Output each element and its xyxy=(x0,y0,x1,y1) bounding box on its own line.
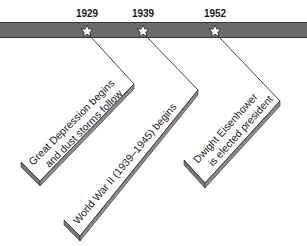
connector-line xyxy=(90,36,134,84)
year-label: 1939 xyxy=(132,8,155,19)
event-text: and dust storms follow xyxy=(42,87,125,170)
connector-line xyxy=(146,36,198,90)
year-label: 1929 xyxy=(76,8,99,19)
timeline-band xyxy=(0,22,307,38)
year-label: 1952 xyxy=(204,8,227,19)
timeline-diagram: 1929 1939 1952 Great Depression begins a… xyxy=(0,0,307,246)
event-card: Dwight Eisenhower is elected president xyxy=(184,84,280,188)
